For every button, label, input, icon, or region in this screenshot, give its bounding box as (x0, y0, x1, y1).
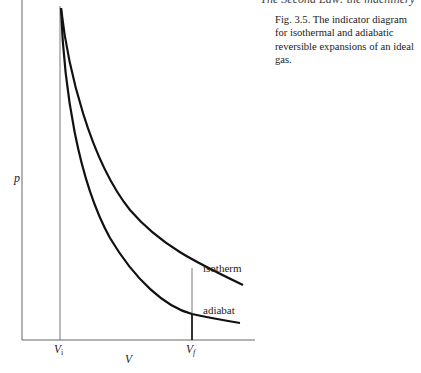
adiabat-label: adiabat (203, 304, 235, 316)
tick-vi: Vi (54, 343, 64, 357)
isotherm-label: isotherm (203, 262, 242, 274)
adiabat-curve (61, 8, 240, 323)
x-axis-label: V (125, 353, 134, 365)
tick-vi-sub: i (61, 348, 64, 357)
tick-vf: Vf (186, 343, 197, 357)
isotherm-curve (61, 8, 243, 285)
tick-vf-sub: f (193, 348, 197, 357)
indicator-diagram: p V Vi Vf isotherm adiabat (0, 0, 421, 373)
y-axis-label: p (13, 171, 20, 185)
